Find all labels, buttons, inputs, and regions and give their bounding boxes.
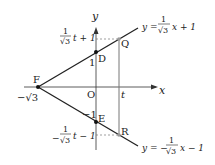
lower-line-equation: y = − 1 √3 x − 1 [141,136,204,156]
svg-text:−: − [52,133,60,143]
svg-text:1: 1 [63,27,68,36]
point-e-value: −1 [82,109,97,120]
svg-text:x − 1: x − 1 [180,143,204,153]
point-d-label: D [98,53,106,64]
point-q-label: Q [121,38,129,49]
point-f [36,85,40,89]
svg-text:t − 1: t − 1 [73,131,96,141]
svg-text:√3: √3 [158,26,168,35]
y-axis-label: y [91,10,99,23]
r-value-label: − 1 √3 t − 1 [52,125,96,145]
origin-label: O [87,89,95,100]
point-f-value: −√3 [17,92,38,103]
svg-text:√3: √3 [60,136,70,145]
point-d-value: 1 [89,57,95,68]
point-e-label: E [98,113,105,124]
svg-text:y = −: y = − [141,143,168,153]
x-axis-label: x [159,84,166,97]
svg-text:1: 1 [63,125,68,134]
svg-text:1: 1 [169,136,174,145]
svg-text:t + 1: t + 1 [73,33,96,43]
svg-text:√3: √3 [166,147,176,156]
upper-line-equation: y = 1 √3 x + 1 [141,15,196,35]
svg-text:x + 1: x + 1 [172,22,196,32]
svg-text:y =: y = [141,22,158,32]
tick-t-label: t [121,89,126,100]
x-axis-arrow-icon [151,85,158,90]
svg-text:√3: √3 [60,37,70,46]
point-f-label: F [33,74,40,85]
svg-text:1: 1 [161,15,166,24]
point-r-label: R [121,126,129,137]
q-value-label: 1 √3 t + 1 [60,27,96,46]
coordinate-diagram: y x O t F −√3 D 1 E −1 Q R 1 √3 t + 1 − … [0,0,215,165]
